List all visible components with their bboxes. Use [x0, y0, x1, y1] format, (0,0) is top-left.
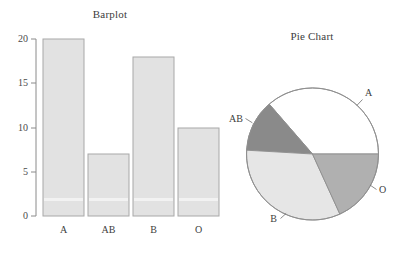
x-label-o: O	[195, 224, 202, 235]
bar-o-band	[179, 198, 218, 201]
x-label-ab: AB	[102, 224, 116, 235]
pie-label-ab: AB	[229, 113, 243, 124]
barplot-svg: 20 15 10 5 0 A AB B O	[0, 0, 220, 253]
pie-label-o: O	[379, 184, 386, 195]
y-tick-label-20: 20	[18, 33, 28, 44]
pie-label-a: A	[365, 87, 373, 98]
pie-label-b: B	[270, 213, 277, 224]
y-tick-label-10: 10	[18, 122, 28, 133]
y-tick-label-0: 0	[23, 210, 28, 221]
bar-o	[178, 128, 219, 216]
pie-leader-ab	[246, 119, 253, 123]
pie-leader-b	[281, 213, 287, 218]
bar-a	[43, 39, 84, 216]
pie-svg: A AB B O	[220, 0, 404, 253]
x-label-a: A	[60, 224, 68, 235]
bar-ab	[88, 154, 129, 216]
pie-leader-o	[370, 185, 377, 190]
bar-a-band	[44, 198, 83, 201]
pie-chart-panel: Pie Chart A AB B O	[220, 0, 404, 253]
barplot-panel: Barplot 20 15 10 5 0 A AB B O	[0, 0, 220, 253]
bar-b-band	[134, 198, 173, 201]
pie-leader-a	[357, 100, 363, 106]
y-tick-label-5: 5	[23, 166, 28, 177]
bar-b	[133, 57, 174, 216]
bar-ab-band	[89, 198, 128, 201]
y-tick-label-15: 15	[18, 77, 28, 88]
x-label-b: B	[150, 224, 157, 235]
